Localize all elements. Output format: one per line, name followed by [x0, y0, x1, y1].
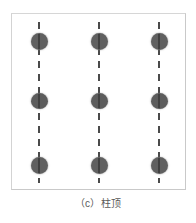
- node-dot-bottom: [31, 157, 48, 174]
- node-dot-middle: [151, 93, 168, 109]
- node-dot-bottom: [151, 157, 168, 174]
- figure-caption: （c）柱顶: [0, 197, 196, 210]
- node-dot-middle: [31, 93, 48, 109]
- column-group-3: [139, 14, 179, 189]
- node-dot-bottom: [91, 157, 108, 174]
- column-group-1: [19, 14, 59, 189]
- node-dot-top: [91, 33, 108, 50]
- diagram-frame: [11, 13, 186, 190]
- node-dot-top: [31, 33, 48, 50]
- node-dot-top: [151, 33, 168, 50]
- node-dot-middle: [91, 93, 108, 109]
- column-group-2: [79, 14, 119, 189]
- figure-root: （c）柱顶: [0, 0, 196, 223]
